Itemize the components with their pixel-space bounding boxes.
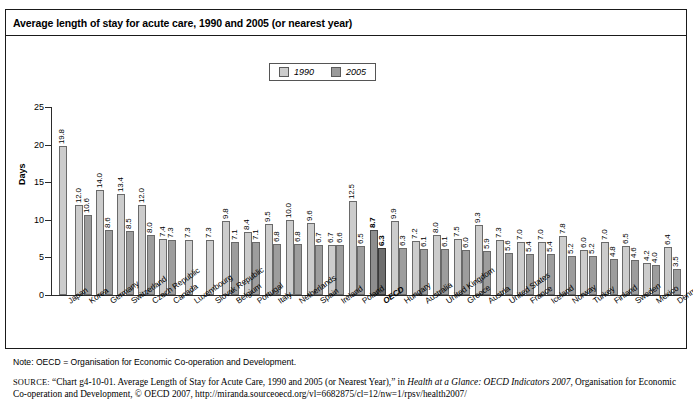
y-axis-tick-mark	[45, 220, 51, 221]
bar-value-label: 6.1	[420, 237, 428, 248]
bar	[117, 194, 125, 295]
y-axis-tick-label: 0	[4, 291, 44, 300]
bar-value-label: 6.8	[273, 231, 281, 242]
bar-value-label: 8.0	[146, 222, 154, 233]
y-axis-tick-mark	[45, 182, 51, 183]
bar-value-label: 6.5	[357, 234, 365, 245]
bar-group: 6.43.5	[662, 107, 683, 295]
bar-value-label: 8.7	[369, 217, 377, 228]
bar-group: 13.48.5	[115, 107, 136, 295]
plot-area: Days 0510152025 19.812.010.614.08.613.48…	[0, 0, 693, 401]
bar-value-label: 7.0	[516, 230, 524, 241]
bar-group: 8.06.1	[431, 107, 452, 295]
bar-value-label: 4.8	[609, 246, 617, 257]
bar-value-label: 7.3	[167, 228, 175, 239]
bar-group: 7.05.4	[515, 107, 536, 295]
bar-value-label: 8.0	[432, 222, 440, 233]
bar	[59, 146, 67, 295]
bar-value-label: 7.1	[231, 229, 239, 240]
y-axis-tick-mark	[45, 295, 51, 296]
y-axis-tick-label: 25	[4, 103, 44, 112]
bar-group: 9.96.3	[389, 107, 410, 295]
bar-value-label: 7.0	[601, 230, 609, 241]
bar-group: 12.56.5	[346, 107, 367, 295]
figure-container: Average length of stay for acute care, 1…	[0, 0, 693, 401]
bar	[336, 245, 344, 295]
bar-value-label: 7.8	[559, 224, 567, 235]
bar	[391, 221, 399, 295]
bar-group: 4.24.0	[641, 107, 662, 295]
source-label: SOURCE:	[13, 378, 50, 387]
bar-value-label: 5.4	[525, 242, 533, 253]
bar-group: 12.010.6	[73, 107, 94, 295]
bar-value-label: 6.7	[327, 232, 335, 243]
y-axis-tick-mark	[45, 107, 51, 108]
bar-value-label: 8.5	[125, 219, 133, 230]
bar-group: 12.08.0	[136, 107, 157, 295]
bar-value-label: 6.3	[399, 235, 407, 246]
bar-value-label: 5.9	[483, 238, 491, 249]
bar-value-label: 7.0	[537, 230, 545, 241]
bar-value-label: 5.2	[567, 243, 575, 254]
bar-value-label: 6.0	[462, 237, 470, 248]
bar-group: 7.3	[199, 107, 220, 295]
bar-value-label: 9.6	[306, 210, 314, 221]
y-axis-tick-mark	[45, 145, 51, 146]
bar-group: 9.87.1	[220, 107, 241, 295]
bar-value-label: 10.0	[285, 203, 293, 218]
bar-value-label: 5.2	[588, 243, 596, 254]
bar-group: 19.8	[52, 107, 73, 295]
figure-source: SOURCE: “Chart g4-10-01. Average Length …	[13, 377, 681, 401]
bar-group: 7.04.8	[599, 107, 620, 295]
y-axis-tick-mark	[45, 257, 51, 258]
figure-note: Note: OECD = Organisation for Economic C…	[13, 357, 296, 367]
bar-value-label: 6.7	[315, 232, 323, 243]
bar-group: 7.35.6	[494, 107, 515, 295]
bar-group: 6.54.6	[620, 107, 641, 295]
bar-value-label: 6.1	[441, 237, 449, 248]
bar-value-label: 13.4	[117, 177, 125, 192]
bar-value-label: 5.4	[546, 242, 554, 253]
bar	[349, 201, 357, 295]
bar-value-label: 12.5	[348, 184, 356, 199]
bar-value-label: 19.8	[58, 129, 66, 144]
bar-value-label: 9.8	[222, 209, 230, 220]
bar-group: 7.47.3	[157, 107, 178, 295]
bar-series-container: 19.812.010.614.08.613.48.512.08.07.47.37…	[52, 107, 683, 295]
bar	[294, 244, 302, 295]
bar-value-label: 7.3	[184, 228, 192, 239]
bar-value-label: 5.6	[504, 240, 512, 251]
bar-value-label: 6.6	[336, 233, 344, 244]
source-text-part1: “Chart g4-10-01. Average Length of Stay …	[52, 377, 407, 387]
bar-value-label: 7.3	[205, 228, 213, 239]
bar-value-label: 4.6	[630, 248, 638, 259]
y-axis-tick-label: 10	[4, 216, 44, 225]
bar-group: 7.05.4	[536, 107, 557, 295]
bar-value-label: 12.0	[138, 188, 146, 203]
bar-group: 7.56.0	[452, 107, 473, 295]
bar	[75, 205, 83, 295]
bar-value-label: 6.3	[378, 235, 386, 246]
bar-value-label: 8.6	[104, 218, 112, 229]
y-axis-ticks: 0510152025	[0, 0, 44, 300]
bar-group: 7.26.1	[410, 107, 431, 295]
bar-value-label: 4.0	[651, 252, 659, 263]
bar-value-label: 9.5	[264, 211, 272, 222]
bar-value-label: 7.1	[252, 229, 260, 240]
bar	[96, 190, 104, 295]
bar	[138, 205, 146, 295]
bar-group: 9.56.8	[262, 107, 283, 295]
bar-value-label: 8.4	[243, 219, 251, 230]
bar-group: 14.08.6	[94, 107, 115, 295]
y-axis-tick-label: 20	[4, 141, 44, 150]
bar-value-label: 7.3	[495, 228, 503, 239]
bar-group: 9.66.7	[304, 107, 325, 295]
bar-value-label: 3.5	[672, 256, 680, 267]
bar-value-label: 6.4	[664, 234, 672, 245]
source-publication-title: Health at a Glance: OECD Indicators 2007	[407, 377, 570, 387]
bar-value-label: 9.9	[390, 208, 398, 219]
bar-value-label: 6.8	[294, 231, 302, 242]
bar-value-label: 7.5	[453, 226, 461, 237]
bar-group: 7.85.2	[557, 107, 578, 295]
bar-value-label: 10.6	[83, 199, 91, 214]
